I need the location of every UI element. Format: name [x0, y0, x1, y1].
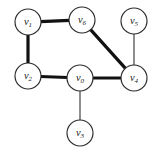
graph-node-v5[interactable]: v5	[121, 8, 147, 34]
graph-node-v6[interactable]: v6	[69, 7, 95, 33]
graph-edge-v1-v6	[40, 20, 69, 21]
graph-edge-v2-v0	[40, 76, 67, 77]
graph-canvas: v0v1v2v3v4v5v6	[0, 0, 162, 154]
graph-figure: v0v1v2v3v4v5v6	[0, 0, 162, 154]
graph-edge-v6-v4	[90, 29, 125, 68]
graph-node-v1[interactable]: v1	[15, 9, 41, 35]
graph-node-v2[interactable]: v2	[15, 63, 41, 89]
graph-node-v4[interactable]: v4	[121, 65, 147, 91]
node-layer: v0v1v2v3v4v5v6	[15, 7, 147, 146]
graph-node-v0[interactable]: v0	[67, 65, 93, 91]
graph-node-v3[interactable]: v3	[67, 120, 93, 146]
